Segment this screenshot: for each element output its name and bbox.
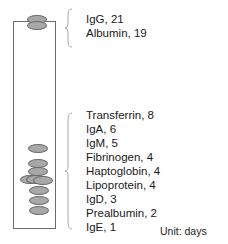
label-lipoprotein: Lipoprotein, 4 (86, 179, 156, 192)
label-iga: IgA, 6 (86, 123, 116, 136)
ellipse-prealbumin (29, 196, 49, 205)
label-fibrinogen: Fibrinogen, 4 (86, 151, 153, 164)
brace-top-icon (64, 8, 74, 48)
label-transferrin: Transferrin, 8 (86, 109, 154, 122)
ellipse-ige (29, 206, 49, 215)
label-igg: IgG, 21 (86, 13, 124, 26)
label-igd: IgD, 3 (86, 193, 117, 206)
ellipse-transferrin (28, 144, 48, 153)
label-igm: IgM, 5 (86, 137, 118, 150)
ellipse-lipoprotein (33, 176, 53, 185)
label-albumin: Albumin, 19 (86, 27, 147, 40)
ellipse-albumin (27, 21, 47, 30)
unit-label: Unit: days (160, 225, 207, 237)
ellipse-igd (29, 186, 49, 195)
label-ige: IgE, 1 (86, 221, 116, 234)
brace-bottom-icon (64, 112, 74, 230)
label-haptoglobin: Haptoglobin, 4 (86, 165, 160, 178)
label-prealbumin: Prealbumin, 2 (86, 207, 157, 220)
